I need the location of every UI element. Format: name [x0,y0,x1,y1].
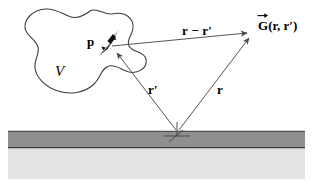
green-function-diagram: r − r′ r′ r p V G (r, r′) [0,0,319,187]
green-function-label: G (r, r′) [258,19,297,32]
dark-slab-layer [8,131,305,148]
green-function-args-text: (r, r′) [268,18,297,33]
dipole-label: p [87,35,94,48]
source-volume-outline [25,9,146,93]
green-function-symbol-text: G [258,18,268,33]
r-minus-r-prime-vector [112,33,247,46]
r-label: r [217,83,223,96]
r-minus-r-prime-label: r − r′ [182,24,212,37]
volume-label: V [55,64,64,79]
r-prime-vector [117,53,176,130]
light-half-space-layer [8,148,305,179]
r-vector [179,38,249,130]
green-function-symbol-wrap: G [258,19,268,32]
r-prime-label: r′ [148,83,158,96]
